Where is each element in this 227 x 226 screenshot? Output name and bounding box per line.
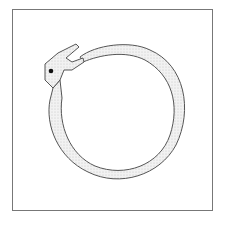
- serpent-head: [45, 44, 84, 88]
- serpent-eye: [49, 69, 54, 74]
- ouroboros-illustration: [0, 0, 227, 226]
